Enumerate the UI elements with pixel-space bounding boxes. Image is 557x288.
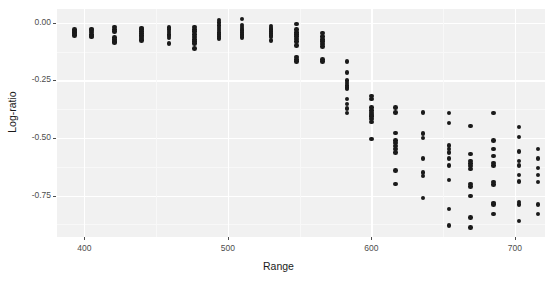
data-point (167, 36, 172, 41)
data-point (491, 212, 496, 217)
data-point (139, 38, 144, 43)
data-point (491, 147, 496, 152)
gridline-x-major (228, 9, 229, 237)
data-point (447, 111, 452, 116)
data-point (491, 163, 496, 168)
data-point (192, 46, 197, 51)
x-tick-mark (371, 237, 372, 240)
data-point (421, 136, 426, 141)
data-point (517, 173, 522, 178)
gridline-y-minor (57, 52, 545, 53)
data-point (468, 152, 473, 157)
y-tick-mark (53, 80, 56, 81)
y-tick-mark (53, 196, 56, 197)
data-point (269, 38, 274, 43)
data-point (536, 202, 541, 207)
data-point (320, 44, 325, 49)
data-point (468, 184, 473, 189)
data-point (468, 194, 473, 199)
data-point (536, 166, 541, 171)
x-tick-label: 700 (508, 243, 522, 253)
data-point (536, 180, 541, 185)
data-point (112, 40, 117, 45)
data-point (468, 167, 473, 172)
data-point (536, 212, 541, 217)
data-point (89, 35, 94, 40)
x-tick-label: 600 (364, 243, 378, 253)
gridline-y-major (57, 23, 545, 24)
data-point (491, 111, 496, 116)
y-tick-label: -0.75 (32, 190, 51, 200)
data-point (517, 202, 522, 207)
gridline-x-minor (156, 9, 157, 237)
data-point (421, 110, 426, 115)
data-point (345, 70, 350, 75)
gridline-x-major (515, 9, 516, 237)
data-point (447, 207, 452, 212)
data-point (491, 138, 496, 143)
data-point (345, 111, 350, 116)
data-point (517, 219, 522, 224)
data-point (447, 163, 452, 168)
gridline-y-major (57, 138, 545, 139)
data-point (369, 137, 374, 142)
y-axis-title: Log-ratio (6, 52, 18, 172)
y-tick-label: 0.00 (34, 17, 51, 27)
data-point (72, 27, 77, 32)
data-point (491, 202, 496, 207)
data-point (167, 41, 172, 46)
y-tick-label: -0.25 (32, 74, 51, 84)
data-point (447, 223, 452, 228)
data-point (89, 27, 94, 32)
gridline-y-minor (57, 109, 545, 110)
y-tick-label: -0.50 (32, 132, 51, 142)
data-point (517, 149, 522, 154)
data-point (491, 154, 496, 159)
data-point (447, 178, 452, 183)
plot-panel (57, 9, 545, 237)
data-point (536, 173, 541, 178)
data-point (447, 150, 452, 155)
data-point (320, 59, 325, 64)
gridline-y-major (57, 80, 545, 81)
gridline-x-minor (300, 9, 301, 237)
data-point (491, 182, 496, 187)
data-point (369, 97, 374, 102)
y-tick-mark (53, 23, 56, 24)
scatter-plot-figure: 0.00-0.25-0.50-0.75 400500600700 Log-rat… (0, 0, 557, 288)
data-point (240, 17, 245, 22)
x-tick-label: 500 (221, 243, 235, 253)
data-point (517, 179, 522, 184)
data-point (468, 124, 473, 129)
data-point (536, 156, 541, 161)
data-point (345, 87, 350, 92)
data-point (517, 125, 522, 130)
data-point (447, 121, 452, 126)
data-point (393, 105, 398, 110)
data-point (421, 174, 426, 179)
x-tick-mark (228, 237, 229, 240)
x-tick-mark (84, 237, 85, 240)
data-point (294, 22, 299, 27)
data-point (240, 35, 245, 40)
data-point (294, 43, 299, 48)
data-point (393, 131, 398, 136)
data-point (294, 59, 299, 64)
data-point (112, 29, 117, 34)
data-point (421, 131, 426, 136)
data-point (468, 225, 473, 230)
data-point (345, 59, 350, 64)
y-tick-mark (53, 138, 56, 139)
data-point (369, 120, 374, 125)
data-point (421, 156, 426, 161)
x-axis-title: Range (0, 260, 557, 272)
data-point (447, 156, 452, 161)
data-point (393, 168, 398, 173)
data-point (393, 110, 398, 115)
data-point (536, 147, 541, 152)
data-point (393, 150, 398, 155)
data-point (468, 215, 473, 220)
data-point (421, 196, 426, 201)
data-point (217, 36, 222, 41)
gridline-x-major (84, 9, 85, 237)
